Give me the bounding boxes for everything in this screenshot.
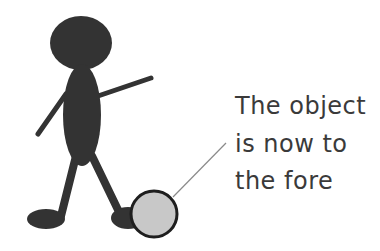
ball xyxy=(131,191,177,237)
left-leg xyxy=(61,156,76,216)
illustration xyxy=(0,0,380,251)
body xyxy=(63,64,101,166)
caption-line-3: the fore xyxy=(235,169,333,193)
right-arm xyxy=(98,78,151,96)
left-foot xyxy=(27,209,65,229)
caption-line-2: is now to xyxy=(235,132,348,156)
stick-figure xyxy=(27,16,151,229)
left-arm xyxy=(38,94,66,134)
right-leg xyxy=(92,156,120,214)
caption-line-1: The object xyxy=(235,94,366,118)
callout-line xyxy=(173,143,226,197)
head xyxy=(50,16,112,70)
